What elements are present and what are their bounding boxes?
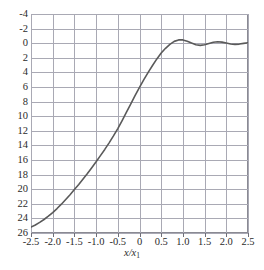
x-axis-tick-labels: -2.5-2.0-1.5-1.0-0.500.51.01.52.02.5 [0,0,264,270]
x-axis-title-subscript: 1 [136,251,140,260]
chart-figure: -4-202468101214161820222426 -2.5-2.0-1.5… [0,0,264,270]
x-axis-tick-label: 2.5 [233,237,263,248]
x-axis-title: x/x1 [0,247,264,260]
x-axis-title-text: x/x [124,247,136,258]
